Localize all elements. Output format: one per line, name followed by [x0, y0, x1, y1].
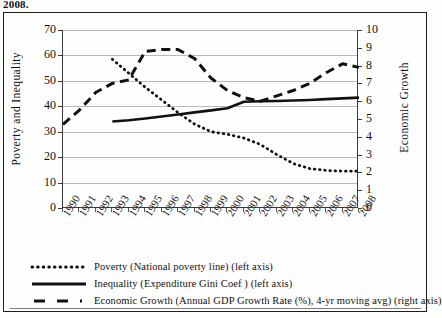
y-axis-left-tick-label: 10 [30, 176, 56, 188]
y-axis-left-tick-label: 60 [30, 48, 56, 60]
y-axis-right-tick-label: 2 [366, 165, 392, 177]
y-axis-right-tick-label: 3 [366, 148, 392, 160]
chart-legend: Poverty (National poverty line) (left ax… [30, 258, 410, 309]
caption-tail-text: 2008. [3, 0, 29, 10]
y-axis-right-tick-label: 4 [366, 130, 392, 142]
data-series-layer [63, 30, 359, 208]
legend-item: Inequality (Expenditure Gini Coef ) (lef… [30, 275, 410, 292]
legend-item: Economic Growth (Annual GDP Growth Rate … [30, 292, 410, 309]
y-axis-right-tick-label: 6 [366, 94, 392, 106]
series-line-dashed [63, 50, 359, 125]
y-axis-right-tick-label: 9 [366, 41, 392, 53]
dotted-line-swatch [30, 261, 88, 273]
y-axis-left-tick-label: 70 [30, 23, 56, 35]
legend-item-label: Poverty (National poverty line) (left ax… [94, 261, 273, 272]
y-axis-right-tick-label: 5 [366, 112, 392, 124]
legend-item-label: Inequality (Expenditure Gini Coef ) (lef… [94, 278, 292, 289]
y-axis-left-title: Poverty and Inequality [10, 52, 22, 166]
y-axis-right-tick-label: 10 [366, 23, 392, 35]
y-axis-left-tick-label: 50 [30, 74, 56, 86]
plot-area [62, 30, 358, 208]
dashed-line-swatch [30, 295, 88, 307]
legend-item-label: Economic Growth (Annual GDP Growth Rate … [94, 295, 442, 306]
y-axis-right-tick-label: 7 [366, 76, 392, 88]
y-axis-left-tick-label: 40 [30, 99, 56, 111]
y-axis-left-tick-label: 0 [30, 201, 56, 213]
y-axis-left-tick-label: 20 [30, 150, 56, 162]
series-line-solid [112, 98, 359, 122]
legend-item: Poverty (National poverty line) (left ax… [30, 258, 410, 275]
series-line-dotted [112, 59, 359, 171]
y-axis-right-title: Economic Growth [398, 62, 410, 153]
y-axis-left-tick-label: 30 [30, 125, 56, 137]
bottom-rule [10, 308, 421, 309]
y-axis-right-tick-label: 8 [366, 59, 392, 71]
solid-line-swatch [30, 278, 88, 290]
